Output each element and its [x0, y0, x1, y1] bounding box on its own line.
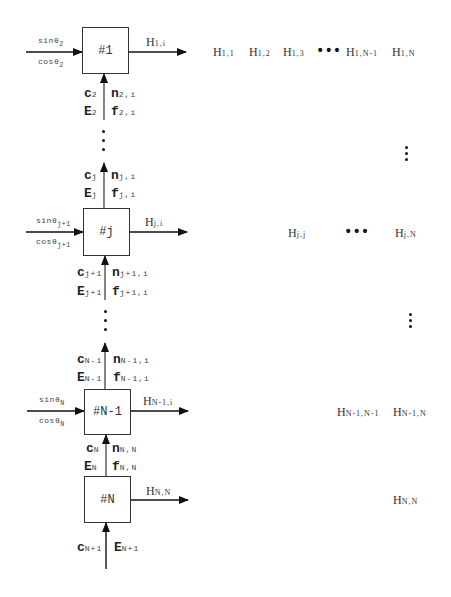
block-1: #1 — [82, 27, 129, 74]
link-e-j: Ej — [84, 186, 98, 201]
link-f-n1i: fN-1,i — [113, 370, 150, 385]
matrix-vertical-ellipsis-1 — [405, 146, 409, 164]
link-c-n: cN — [86, 441, 100, 456]
block-label: #N-1 — [93, 405, 122, 419]
matrix-h-j-n: Hj,N — [395, 226, 417, 241]
link-n-j1i: nj+1,i — [112, 265, 149, 280]
link-n-nn: nN,N — [112, 441, 137, 456]
block-label: #j — [99, 225, 113, 239]
block-n-minus-1: #N-1 — [84, 389, 131, 435]
matrix-ellipsis-rowj: ••• — [344, 224, 369, 240]
link-c-n-plus-1: cN+1 — [77, 540, 102, 555]
vertical-ellipsis-2 — [104, 310, 108, 337]
matrix-h-j-j: Hj,j — [288, 226, 306, 241]
block-j: #j — [83, 208, 130, 256]
matrix-h-n1-n: HN-1,N — [393, 405, 427, 420]
output-bj: Hj,i — [145, 215, 163, 230]
matrix-vertical-ellipsis-2 — [409, 313, 413, 331]
block-n: #N — [84, 476, 131, 523]
matrix-h-1-n-minus-1: H1,N-1 — [346, 45, 378, 60]
matrix-h-n1-n1: HN-1,N-1 — [337, 405, 380, 420]
link-n-n1i: nN-1,i — [113, 352, 150, 367]
matrix-h-n-n: HN,N — [393, 493, 418, 508]
link-c-j: cj — [84, 168, 98, 183]
matrix-h-1-2: H1,2 — [249, 45, 271, 60]
matrix-h-1-1: H1,1 — [213, 45, 235, 60]
matrix-h-1-3: H1,3 — [283, 45, 305, 60]
input-sin-bj: sinθj+1 — [36, 216, 71, 228]
link-f-ji: fj,i — [111, 186, 136, 201]
wiring — [0, 0, 451, 597]
vertical-ellipsis-1 — [102, 130, 106, 157]
input-sin-b1: sinθ2 — [38, 36, 64, 48]
link-e-j1: Ej+1 — [77, 284, 102, 299]
link-n-2i: n2,i — [111, 86, 136, 101]
link-e-2: E2 — [84, 104, 98, 119]
link-c-j1: cj+1 — [77, 265, 102, 280]
link-c-n1: cN-1 — [77, 352, 102, 367]
link-f-nn: fN,N — [112, 459, 137, 474]
link-e-n: EN — [84, 459, 98, 474]
input-cos-bn1: cosθN — [39, 416, 65, 428]
input-cos-bj: cosθj+1 — [36, 237, 71, 249]
block-label: #N — [100, 493, 114, 507]
output-b1: H1,i — [146, 35, 166, 50]
output-bn1: HN-1,i — [143, 394, 173, 409]
output-bn: HN,N — [146, 484, 171, 499]
link-c-2: c2 — [84, 86, 98, 101]
matrix-h-1-n: H1,N — [392, 45, 415, 60]
link-e-n1: EN-1 — [77, 370, 102, 385]
input-sin-bn1: sinθN — [39, 395, 65, 407]
matrix-ellipsis-row1: ••• — [316, 43, 341, 59]
link-e-n-plus-1: EN+1 — [114, 540, 139, 555]
input-cos-b1: cosθ2 — [38, 57, 64, 69]
block-label: #1 — [98, 44, 112, 58]
link-f-2i: f2,i — [111, 104, 136, 119]
link-f-j1i: fj+1,i — [112, 284, 149, 299]
link-n-ji: nj,i — [111, 168, 136, 183]
